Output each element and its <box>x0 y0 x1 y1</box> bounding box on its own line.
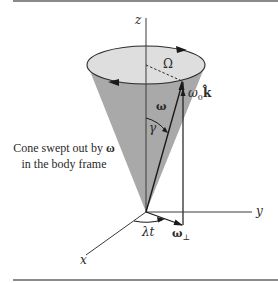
caption-line-2: in the body frame <box>8 156 120 172</box>
omega-perp-omega: ω <box>172 227 182 240</box>
omega-label: ω <box>156 101 166 112</box>
cone-caption: Cone swept out by ω in the body frame <box>8 140 120 172</box>
caption-line-1: Cone swept out by ω <box>8 140 120 156</box>
z-axis-label: z <box>135 14 141 26</box>
omega-perp-label: ω⊥ <box>172 228 190 242</box>
x-axis <box>86 212 146 255</box>
omega-perp-sub: ⊥ <box>182 233 190 242</box>
x-axis-label: x <box>80 254 87 266</box>
bottom-rule <box>13 279 278 281</box>
lambda-t-label: λt <box>142 226 154 238</box>
y-axis-label: y <box>256 205 263 217</box>
omega0k-omega: ω <box>188 86 198 100</box>
omega0k-k: k̂ <box>203 86 211 100</box>
omega-perp-arrowhead <box>174 220 184 226</box>
omega0k-label: ω0k̂ <box>188 87 211 102</box>
capital-omega-label: Ω <box>163 58 173 70</box>
gamma-label: γ <box>149 122 156 134</box>
